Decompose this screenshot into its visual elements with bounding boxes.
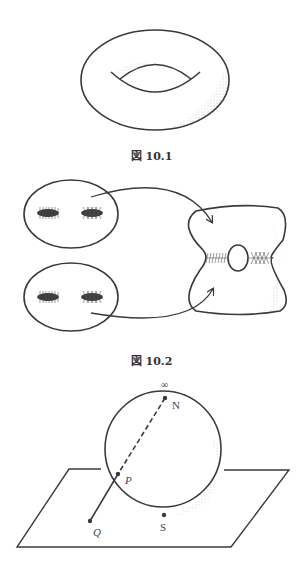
plane	[17, 469, 289, 547]
projection-line-dashed	[118, 398, 165, 474]
label-infinity: ∞	[161, 379, 168, 390]
label-p: P	[125, 474, 132, 486]
figure-caption-10-2: 図 10.2	[0, 352, 303, 368]
torus-outer-outline	[81, 30, 229, 130]
label-n: N	[172, 399, 180, 411]
label-q: Q	[93, 526, 101, 538]
sphere-with-disks-bottom	[24, 263, 118, 331]
torus-figure	[0, 0, 303, 567]
label-s: S	[160, 521, 166, 533]
point-n	[163, 396, 167, 400]
glued-surface	[188, 206, 286, 315]
sphere-with-disks-top	[24, 180, 118, 248]
stereographic-figure	[17, 391, 289, 547]
point-s	[162, 513, 166, 517]
arrow-bottom-to-surface	[91, 289, 213, 318]
point-p	[116, 472, 120, 476]
figure-caption-10-1: 図 10.1	[0, 147, 303, 163]
sphere	[105, 391, 221, 507]
point-q	[88, 519, 92, 523]
arrow-top-to-surface	[91, 188, 212, 222]
projection-line-solid	[90, 474, 118, 521]
